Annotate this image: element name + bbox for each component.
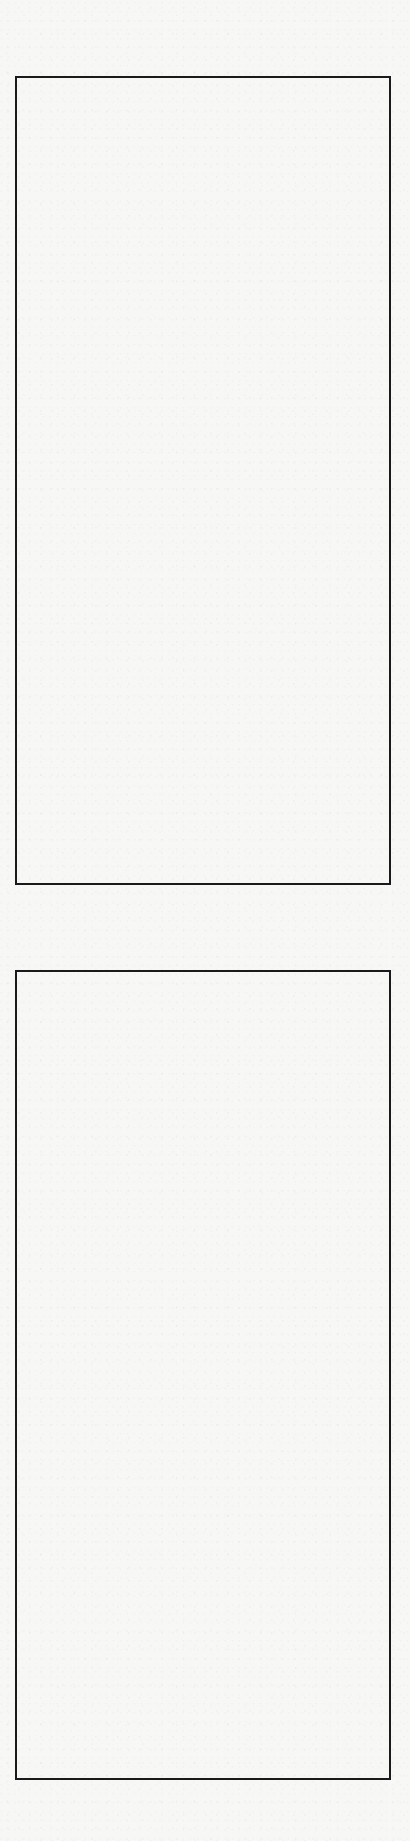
empty-frame-bottom [15, 970, 391, 1780]
empty-frame-top [15, 76, 391, 885]
document-page [0, 0, 410, 1841]
